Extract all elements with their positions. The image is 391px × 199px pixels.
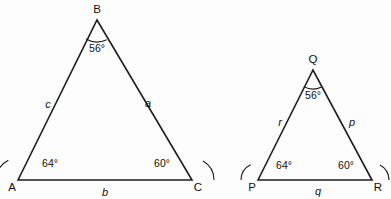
triangle-pqr-vertex-label-r: R (374, 182, 382, 194)
triangle-abc-angle-label-b: 56° (89, 43, 105, 54)
triangle-pqr-side-label-q: q (315, 186, 321, 197)
triangle-abc-side-label-c: c (45, 99, 51, 110)
triangle-abc-vertex-label-b: B (93, 4, 101, 16)
triangles-svg (0, 0, 391, 199)
triangle-pqr-angle-label-r: 60° (338, 160, 354, 171)
triangle-pqr-side-label-r: r (278, 117, 282, 128)
triangle-pqr-vertex-label-q: Q (309, 54, 318, 66)
triangle-abc-vertex-label-a: A (8, 182, 16, 194)
triangle-abc-angle-arc-a (0, 160, 8, 180)
triangle-pqr-angle-arc-p (241, 165, 251, 180)
triangle-pqr-side-label-p: p (349, 117, 355, 128)
geometry-figure: ABC64°56°60°cabPQR64°56°60°rpq (0, 0, 391, 199)
triangle-pqr (241, 70, 389, 180)
triangle-abc-side-label-b: b (102, 187, 108, 198)
triangle-abc (0, 20, 214, 180)
triangle-pqr-angle-label-p: 64° (276, 160, 292, 171)
triangle-pqr-angle-label-q: 56° (305, 90, 321, 101)
triangle-pqr-vertex-label-p: P (248, 182, 256, 194)
triangle-abc-side-label-a: a (145, 98, 151, 109)
triangle-abc-vertex-label-c: C (194, 182, 202, 194)
triangle-abc-angle-arc-c (203, 161, 214, 180)
triangle-abc-angle-label-a: 64° (42, 158, 58, 169)
triangle-pqr-angle-arc-r (380, 165, 389, 180)
triangle-abc-angle-label-c: 60° (154, 158, 170, 169)
